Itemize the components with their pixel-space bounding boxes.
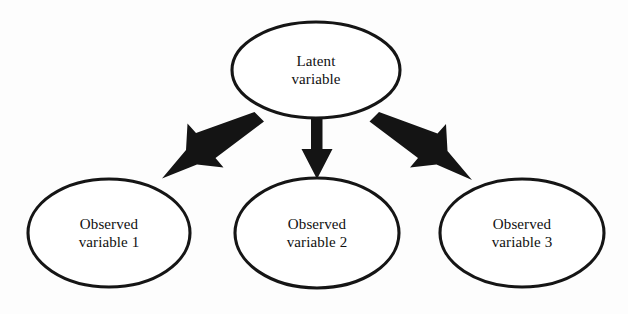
diagram-canvas: Latent variable Observed variable 1 Obse… xyxy=(0,0,628,314)
arrow-left xyxy=(162,112,264,179)
node-observed1-ellipse[interactable] xyxy=(28,179,190,287)
arrow-left-shape xyxy=(162,112,264,179)
arrow-right xyxy=(370,112,473,180)
arrow-center-shape xyxy=(302,112,333,179)
node-observed3-ellipse[interactable] xyxy=(440,179,604,287)
node-latent-ellipse[interactable] xyxy=(232,22,400,118)
diagram-svg xyxy=(0,0,628,314)
node-observed2-ellipse[interactable] xyxy=(235,178,399,288)
arrow-right-shape xyxy=(370,112,473,180)
arrow-center xyxy=(302,112,333,179)
